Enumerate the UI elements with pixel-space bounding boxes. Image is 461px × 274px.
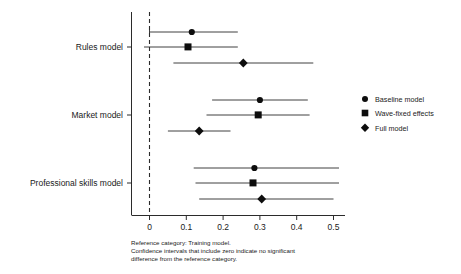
estimate-row-rules-baseline [150,29,238,36]
legend-label-wave-fixed-effects: Wave-fixed effects [375,109,434,118]
estimate-group-rules-model [144,29,313,68]
estimate-row-market-baseline [212,97,308,103]
estimate-row-professional-full [199,195,333,204]
legend-marker-square-icon [362,110,369,117]
caption-line-1: Reference category: Training model. [131,239,231,246]
legend-marker-circle-icon [362,96,368,102]
point-estimate-square [185,43,192,50]
figure-caption: Reference category: Training model. Conf… [131,239,295,262]
forest-plot-figure: 0 0.1 0.2 0.3 0.4 0.5 Rules model Market… [0,0,461,274]
legend: Baseline model Wave-fixed effects Full m… [361,95,434,133]
y-axis-category-labels: Rules model Market model Professional sk… [30,42,123,188]
point-estimate-diamond [239,59,248,68]
caption-line-3: difference from the reference category. [131,255,237,262]
forest-plot-svg: 0 0.1 0.2 0.3 0.4 0.5 Rules model Market… [0,0,461,274]
estimate-row-rules-wave-fixed [144,43,238,50]
legend-item-baseline-model: Baseline model [362,95,425,104]
legend-item-wave-fixed-effects: Wave-fixed effects [362,109,434,118]
x-tick-label-1: 0.1 [180,222,192,232]
point-estimate-diamond [257,195,266,204]
x-tick-label-5: 0.5 [328,222,340,232]
point-estimate-circle [251,165,257,171]
y-axis-ticks [127,47,132,183]
x-tick-label-4: 0.4 [291,222,303,232]
x-axis-ticks [150,216,334,221]
estimate-group-market-model [168,97,310,135]
estimate-row-market-wave-fixed [207,111,310,118]
estimate-group-professional-skills-model [194,165,339,204]
estimate-row-market-full [168,127,231,136]
category-label-market-model: Market model [72,110,124,120]
category-label-rules-model: Rules model [76,42,123,52]
point-estimate-square [255,111,262,118]
point-estimate-square [250,179,257,186]
point-estimate-diamond [195,127,204,136]
estimate-row-professional-wave-fixed [196,179,340,186]
estimate-row-rules-full [173,59,313,68]
caption-line-2: Confidence intervals that include zero i… [131,247,295,254]
point-estimate-circle [189,29,195,35]
x-tick-label-3: 0.3 [254,222,266,232]
x-tick-label-0: 0 [147,222,152,232]
legend-item-full-model: Full model [361,124,409,133]
x-tick-label-2: 0.2 [217,222,229,232]
legend-label-full-model: Full model [375,124,409,133]
point-estimate-circle [257,97,263,103]
x-axis-tick-labels: 0 0.1 0.2 0.3 0.4 0.5 [147,222,340,232]
legend-label-baseline-model: Baseline model [375,95,425,104]
category-label-professional-skills-model: Professional skills model [30,178,123,188]
estimate-row-professional-baseline [194,165,339,171]
legend-marker-diamond-icon [361,124,369,132]
